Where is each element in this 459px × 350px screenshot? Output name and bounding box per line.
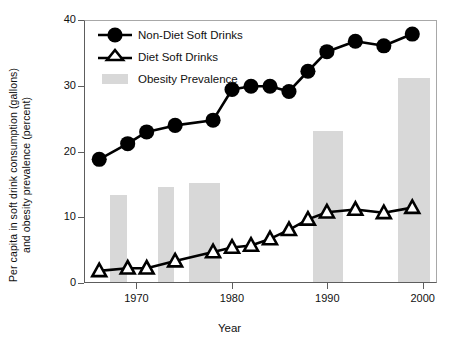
legend-item: Non-Diet Soft Drinks (96, 24, 243, 46)
x-axis-tick-label: 1990 (307, 292, 347, 304)
y-axis-title-line2: and obesity prevalence (percent) (20, 68, 33, 282)
diet-soft-drinks-marker (320, 205, 334, 218)
diet-soft-drinks-marker (263, 232, 277, 245)
y-axis-tick-label: 40 (54, 13, 76, 25)
non-diet-soft-drinks-marker (281, 84, 296, 99)
legend-item: Diet Soft Drinks (96, 46, 243, 68)
diet-soft-drinks-marker (121, 261, 135, 274)
non-diet-soft-drinks-marker (120, 136, 135, 151)
x-axis-tick (232, 283, 233, 289)
non-diet-soft-drinks-marker (168, 118, 183, 133)
legend-item: Obesity Prevalence (96, 68, 243, 90)
diet-soft-drinks-marker (377, 206, 391, 219)
non-diet-soft-drinks-marker (319, 44, 334, 59)
diet-soft-drinks-marker (206, 245, 220, 258)
non-diet-soft-drinks-marker (376, 38, 391, 53)
y-axis-tick-label: 30 (54, 79, 76, 91)
non-diet-soft-drinks-marker (139, 124, 154, 139)
diet-soft-drinks-marker (348, 202, 362, 215)
diet-soft-drinks-marker (92, 264, 106, 277)
y-axis-title: Per capita in soft drink consumption (ga… (0, 0, 40, 350)
non-diet-soft-drinks-marker (405, 27, 420, 42)
legend-item-label: Obesity Prevalence (134, 73, 238, 85)
diet-soft-drinks-marker (301, 212, 315, 225)
diet-soft-drinks-marker (244, 238, 258, 251)
x-axis-tick (327, 283, 328, 289)
legend-item-label: Non-Diet Soft Drinks (134, 29, 243, 41)
legend-gray-bar-swatch (96, 74, 134, 84)
chart-figure: Per capita in soft drink consumption (ga… (0, 0, 459, 350)
x-axis-tick-label: 1970 (116, 292, 156, 304)
legend-item-label: Diet Soft Drinks (134, 51, 218, 63)
non-diet-soft-drinks-marker (348, 34, 363, 49)
y-axis-tick-label: 0 (54, 276, 76, 288)
x-axis-title: Year (0, 322, 459, 334)
diet-soft-drinks-marker (225, 240, 239, 253)
y-axis-tick-label: 20 (54, 145, 76, 157)
gray-bar-swatch-icon (102, 74, 128, 84)
legend-filled-circle-icon (96, 25, 134, 45)
diet-soft-drinks-marker (140, 261, 154, 274)
non-diet-soft-drinks-marker (243, 79, 258, 94)
x-axis-tick (136, 283, 137, 289)
y-axis-tick (78, 283, 84, 284)
diet-soft-drinks-marker (168, 254, 182, 267)
diet-soft-drinks-marker (282, 223, 296, 236)
y-axis-title-line1: Per capita in soft drink consumption (ga… (7, 68, 20, 282)
diet-soft-drinks-marker (405, 200, 419, 213)
y-axis-tick-label: 10 (54, 210, 76, 222)
x-axis-tick (423, 283, 424, 289)
non-diet-soft-drinks-marker (206, 113, 221, 128)
x-axis-tick-label: 2000 (403, 292, 443, 304)
x-axis-tick-label: 1980 (212, 292, 252, 304)
non-diet-soft-drinks-marker (92, 152, 107, 167)
non-diet-soft-drinks-marker (262, 79, 277, 94)
legend-open-triangle-icon (96, 47, 134, 67)
chart-legend: Non-Diet Soft DrinksDiet Soft DrinksObes… (96, 24, 243, 90)
non-diet-soft-drinks-marker (300, 64, 315, 79)
